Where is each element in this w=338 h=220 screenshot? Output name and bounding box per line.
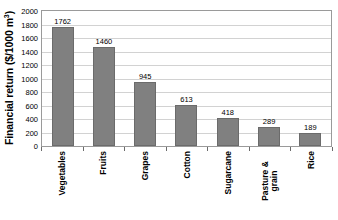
category-label: Fruits	[99, 151, 108, 175]
y-tick-label: 1000	[21, 74, 38, 83]
category-slot: Rice	[290, 151, 332, 217]
category-slot: Grapes	[124, 151, 166, 217]
y-axis-tick-labels: 2000180016001400120010008006004002000	[16, 10, 40, 147]
bar-value-label: 1762	[54, 17, 71, 26]
bar[interactable]	[217, 118, 239, 146]
y-tick-label: 1800	[21, 20, 38, 29]
bar[interactable]	[134, 82, 156, 146]
bar[interactable]	[52, 27, 74, 146]
y-tick-label: 2000	[21, 7, 38, 16]
bar-value-label: 945	[139, 72, 152, 81]
bar-value-label: 189	[304, 123, 317, 132]
y-tick-label: 600	[25, 101, 38, 110]
category-label: Grapes	[140, 151, 149, 180]
bar[interactable]	[93, 47, 115, 146]
bar-value-label: 613	[180, 95, 193, 104]
y-tick-label: 1200	[21, 61, 38, 70]
category-slot: Fruits	[83, 151, 125, 217]
plot-area: 17621460945613418289189	[41, 10, 332, 147]
bar-slot: 1460	[83, 11, 124, 146]
bar-slot: 613	[166, 11, 207, 146]
bar-value-label: 418	[222, 108, 235, 117]
y-tick-label: 200	[25, 128, 38, 137]
tick-mark	[332, 147, 333, 151]
y-tick-label: 0	[34, 142, 38, 151]
category-label: Pasture & grain	[261, 151, 279, 211]
y-axis-title-text: Financial return ($/1000 m	[3, 18, 15, 145]
y-tick-label: 800	[25, 88, 38, 97]
bar[interactable]	[258, 127, 280, 147]
bar-slot: 945	[125, 11, 166, 146]
bar-slot: 1762	[42, 11, 83, 146]
category-label: Cotton	[182, 151, 191, 178]
category-slot: Cotton	[166, 151, 208, 217]
category-slot: Vegetables	[41, 151, 83, 217]
bar-chart: Financial return ($/1000 m3) 20001800160…	[0, 0, 338, 220]
category-label: Sugarcane	[224, 151, 233, 194]
bar[interactable]	[175, 105, 197, 146]
y-tick-label: 1400	[21, 47, 38, 56]
bar-slot: 289	[248, 11, 289, 146]
y-tick-label: 400	[25, 115, 38, 124]
y-axis-title-superscript: 3	[3, 14, 10, 18]
bars-layer: 17621460945613418289189	[42, 11, 331, 146]
bar-slot: 418	[207, 11, 248, 146]
bar[interactable]	[299, 133, 321, 146]
x-axis-category-labels: VegetablesFruitsGrapesCottonSugarcanePas…	[41, 151, 332, 217]
y-axis-title-suffix: )	[3, 10, 15, 13]
category-label: Vegetables	[57, 151, 66, 195]
category-label: Rice	[307, 151, 316, 169]
category-slot: Sugarcane	[207, 151, 249, 217]
bar-value-label: 289	[263, 117, 276, 126]
bar-slot: 189	[290, 11, 331, 146]
bar-value-label: 1460	[96, 37, 113, 46]
category-slot: Pasture & grain	[249, 151, 291, 217]
y-tick-label: 1600	[21, 34, 38, 43]
